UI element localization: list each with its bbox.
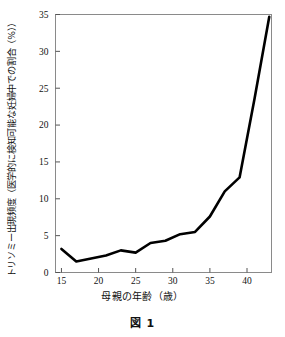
plot-frame <box>56 15 272 273</box>
y-tick-label: 0 <box>44 268 49 278</box>
y-tick-label: 25 <box>39 84 49 94</box>
x-tick-label: 15 <box>57 276 67 286</box>
figure-container: トリソミー出現頻度（医学的に検知可能な妊婦中での割合（%）） 051015202… <box>0 0 285 337</box>
y-tick-label: 20 <box>39 120 49 130</box>
x-axis-title: 母親の年齢（歳） <box>0 288 285 303</box>
x-tick-label: 30 <box>168 276 178 286</box>
y-tick-label: 5 <box>44 231 49 241</box>
chart-plot: 05101520253035 152025303540 <box>0 0 285 337</box>
y-tick-label: 10 <box>39 194 49 204</box>
y-tick-label: 30 <box>39 47 49 57</box>
x-tick-label: 25 <box>131 276 141 286</box>
y-tick-label: 15 <box>39 157 49 167</box>
y-tick-label: 35 <box>39 10 49 20</box>
x-tick-label: 20 <box>94 276 104 286</box>
figure-caption: 図 1 <box>0 314 285 330</box>
x-tick-label: 35 <box>205 276 215 286</box>
x-tick-label: 40 <box>242 276 252 286</box>
